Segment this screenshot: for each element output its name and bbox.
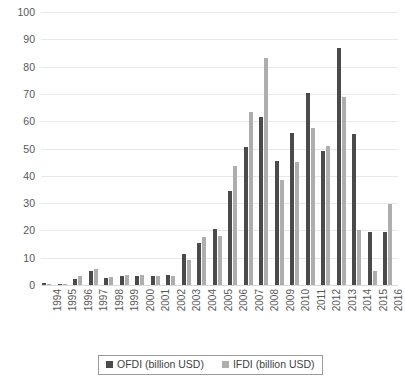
bar-ofdi-2001	[151, 276, 155, 285]
bar-ifdi-1999	[125, 275, 129, 285]
bar-group	[305, 12, 321, 285]
x-tick-label-2012: 2012	[332, 289, 342, 311]
y-tick-label: 40	[23, 171, 35, 182]
bar-group	[103, 12, 119, 285]
y-tick-label: 50	[23, 143, 35, 154]
bar-group	[72, 12, 88, 285]
x-tick-label-1994: 1994	[53, 289, 63, 311]
bar-ifdi-2002	[171, 276, 175, 285]
bar-ifdi-2013	[342, 97, 346, 285]
bar-group	[351, 12, 367, 285]
bar-group	[165, 12, 181, 285]
bar-group	[57, 12, 73, 285]
bar-group	[243, 12, 259, 285]
x-tick-label-1995: 1995	[68, 289, 78, 311]
x-tick-label-1999: 1999	[130, 289, 140, 311]
x-tick-label-2007: 2007	[255, 289, 265, 311]
bar-ifdi-1994	[47, 284, 51, 285]
bar-group	[227, 12, 243, 285]
x-tick-label-2000: 2000	[146, 289, 156, 311]
x-tick-label-2001: 2001	[161, 289, 171, 311]
bar-ofdi-2008	[259, 117, 263, 285]
x-tick-label-2010: 2010	[301, 289, 311, 311]
y-tick-label: 20	[23, 225, 35, 236]
y-tick-label: 10	[23, 252, 35, 263]
y-tick-label: 0	[29, 280, 35, 291]
bar-ofdi-2010	[290, 133, 294, 285]
bar-group	[196, 12, 212, 285]
bar-group	[258, 12, 274, 285]
bar-group	[289, 12, 305, 285]
bar-ofdi-2013	[337, 48, 341, 286]
plot-area	[41, 12, 398, 285]
x-tick-label-2004: 2004	[208, 289, 218, 311]
bar-ifdi-2000	[140, 275, 144, 285]
bar-ofdi-2004	[197, 243, 201, 285]
bar-ifdi-1995	[63, 284, 67, 285]
y-tick-label: 100	[17, 7, 35, 18]
bar-ifdi-2012	[326, 146, 330, 285]
gridline-0	[41, 285, 398, 286]
bar-ofdi-1996	[73, 279, 77, 285]
bar-group	[150, 12, 166, 285]
x-tick-label-2015: 2015	[379, 289, 389, 311]
y-tick-label: 70	[23, 89, 35, 100]
square-light-swatch	[222, 361, 229, 368]
legend-label-ifdi: IFDI (billion USD)	[233, 359, 315, 370]
x-tick-label-1998: 1998	[115, 289, 125, 311]
legend-item-ifdi: IFDI (billion USD)	[222, 359, 315, 370]
bar-ifdi-2004	[202, 237, 206, 285]
y-tick-label: 30	[23, 198, 35, 209]
bar-ifdi-2011	[311, 128, 315, 285]
x-tick-label-2011: 2011	[317, 289, 327, 311]
bar-ofdi-2002	[166, 275, 170, 285]
bar-ofdi-2009	[275, 161, 279, 285]
x-tick-label-2013: 2013	[348, 289, 358, 311]
bar-ifdi-2016	[388, 204, 392, 285]
bar-group	[367, 12, 383, 285]
legend-label-ofdi: OFDI (billion USD)	[117, 359, 204, 370]
x-tick-label-2005: 2005	[224, 289, 234, 311]
x-tick-label-1996: 1996	[84, 289, 94, 311]
bar-ofdi-2015	[368, 232, 372, 286]
bar-group	[274, 12, 290, 285]
bar-ofdi-1998	[104, 278, 108, 285]
y-tick-label: 80	[23, 61, 35, 72]
bar-ofdi-2006	[228, 191, 232, 285]
bar-ifdi-2014	[357, 230, 361, 285]
bar-ifdi-2007	[249, 112, 253, 285]
bar-ifdi-2010	[295, 162, 299, 285]
square-dark-swatch	[106, 361, 113, 368]
bar-ofdi-1997	[89, 271, 93, 285]
bar-group	[134, 12, 150, 285]
bar-ofdi-2000	[135, 276, 139, 285]
chart-legend: OFDI (billion USD) IFDI (billion USD)	[98, 355, 323, 375]
bar-ofdi-2011	[306, 93, 310, 285]
legend-item-ofdi: OFDI (billion USD)	[106, 359, 204, 370]
bar-group	[382, 12, 398, 285]
bar-ofdi-1999	[120, 276, 124, 285]
bar-group	[320, 12, 336, 285]
x-axis: 1994199519961997199819992000200120022003…	[41, 287, 398, 347]
bar-ifdi-2009	[280, 180, 284, 285]
bar-ofdi-2012	[321, 151, 325, 285]
bar-ifdi-2015	[373, 271, 377, 285]
bar-ofdi-2003	[182, 254, 186, 285]
x-tick-label-2016: 2016	[394, 289, 404, 311]
bar-ifdi-2001	[156, 276, 160, 285]
bar-ofdi-1994	[42, 283, 46, 285]
x-tick-label-1997: 1997	[99, 289, 109, 311]
x-tick-label-2003: 2003	[192, 289, 202, 311]
x-tick-label-2002: 2002	[177, 289, 187, 311]
y-tick-label: 60	[23, 116, 35, 127]
bar-series-container	[41, 12, 398, 285]
bar-ifdi-1998	[109, 277, 113, 285]
bar-chart: 0102030405060708090100 19941995199619971…	[0, 0, 405, 381]
bar-ofdi-2005	[213, 229, 217, 285]
y-axis: 0102030405060708090100	[0, 0, 41, 297]
bar-ofdi-1995	[58, 284, 62, 285]
bar-ifdi-1996	[78, 276, 82, 285]
bar-group	[212, 12, 228, 285]
bar-ifdi-2003	[187, 260, 191, 285]
x-tick-label-2008: 2008	[270, 289, 280, 311]
